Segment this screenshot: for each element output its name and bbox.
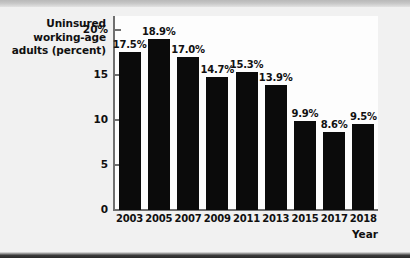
bar-group: 9.5% bbox=[352, 16, 374, 210]
bars-layer: 17.5%18.9%17.0%14.7%15.3%13.9%9.9%8.6%9.… bbox=[115, 16, 378, 210]
bar-value-label-2018: 9.5% bbox=[350, 111, 377, 122]
bar-value-label-2005: 18.9% bbox=[142, 26, 176, 37]
bar-group: 13.9% bbox=[265, 16, 287, 210]
bar-value-label-2007: 17.0% bbox=[171, 44, 205, 55]
bar-group: 15.3% bbox=[236, 16, 258, 210]
bar-value-label-2017: 8.6% bbox=[321, 119, 348, 130]
bar-2005[interactable] bbox=[148, 39, 170, 210]
bar-2013[interactable] bbox=[265, 85, 287, 210]
bar-group: 18.9% bbox=[148, 16, 170, 210]
bar-value-label-2003: 17.5% bbox=[113, 39, 147, 50]
x-tick-label-2005: 2005 bbox=[144, 213, 173, 224]
bar-2018[interactable] bbox=[352, 124, 374, 210]
x-tick-label-2015: 2015 bbox=[290, 213, 319, 224]
y-tick-label-15: 15 bbox=[60, 68, 108, 80]
chart-screenshot: Uninsured working-age adults (percent) 0… bbox=[0, 0, 410, 258]
x-tick-label-2017: 2017 bbox=[320, 213, 349, 224]
bar-group: 17.0% bbox=[177, 16, 199, 210]
chart-title-line-3: adults (percent) bbox=[8, 44, 106, 58]
scan-band-top bbox=[0, 0, 410, 7]
y-tick-label-10: 10 bbox=[60, 113, 108, 125]
scan-band-bottom bbox=[0, 252, 410, 258]
bar-group: 8.6% bbox=[323, 16, 345, 210]
bar-2017[interactable] bbox=[323, 132, 345, 210]
bar-group: 14.7% bbox=[206, 16, 228, 210]
y-tick-label-5: 5 bbox=[60, 158, 108, 170]
y-tick-label-20: 20% bbox=[60, 23, 108, 35]
x-tick-label-2003: 2003 bbox=[115, 213, 144, 224]
x-tick-label-2018: 2018 bbox=[349, 213, 378, 224]
bar-2015[interactable] bbox=[294, 121, 316, 210]
bar-value-label-2013: 13.9% bbox=[259, 72, 293, 83]
x-tick-label-2013: 2013 bbox=[261, 213, 290, 224]
bar-2009[interactable] bbox=[206, 77, 228, 210]
bar-group: 9.9% bbox=[294, 16, 316, 210]
bar-value-label-2015: 9.9% bbox=[291, 108, 318, 119]
bar-2007[interactable] bbox=[177, 57, 199, 210]
x-tick-label-2009: 2009 bbox=[203, 213, 232, 224]
bar-group: 17.5% bbox=[119, 16, 141, 210]
bar-value-label-2011: 15.3% bbox=[230, 59, 264, 70]
bar-2003[interactable] bbox=[119, 52, 141, 210]
x-tick-label-2011: 2011 bbox=[232, 213, 261, 224]
y-tick-label-0: 0 bbox=[60, 203, 108, 215]
x-axis-title: Year bbox=[352, 228, 378, 240]
bar-2011[interactable] bbox=[236, 72, 258, 210]
x-tick-label-2007: 2007 bbox=[173, 213, 202, 224]
